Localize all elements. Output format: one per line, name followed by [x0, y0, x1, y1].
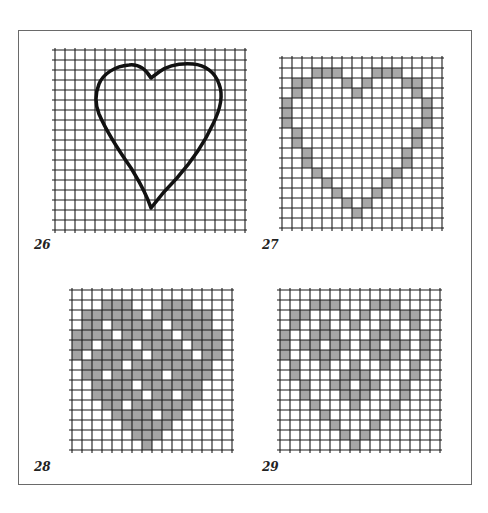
figure-label-27: 27	[262, 238, 279, 252]
filled-cell	[142, 380, 152, 390]
filled-cell	[300, 310, 310, 320]
filled-cell	[380, 410, 390, 420]
filled-cell	[172, 370, 182, 380]
filled-cell	[390, 400, 400, 410]
filled-cell	[172, 350, 182, 360]
filled-cell	[330, 420, 340, 430]
grid-panel-28	[72, 290, 232, 450]
filled-cell	[412, 138, 422, 148]
filled-cell	[412, 88, 422, 98]
filled-cell	[112, 370, 122, 380]
filled-cell	[162, 310, 172, 320]
filled-cell	[172, 360, 182, 370]
filled-cell	[122, 370, 132, 380]
filled-cell	[412, 128, 422, 138]
filled-cell	[152, 390, 162, 400]
filled-cell	[122, 420, 132, 430]
filled-cell	[102, 400, 112, 410]
filled-cell	[212, 330, 222, 340]
filled-cell	[92, 320, 102, 330]
filled-cell	[132, 350, 142, 360]
filled-cell	[362, 198, 372, 208]
filled-cell	[162, 380, 172, 390]
filled-cell	[402, 148, 412, 158]
filled-cell	[360, 380, 370, 390]
filled-cell	[322, 68, 332, 78]
filled-cell	[192, 340, 202, 350]
grid-panel-26	[55, 50, 245, 230]
filled-cell	[340, 340, 350, 350]
filled-cell	[182, 350, 192, 360]
filled-cell	[340, 370, 350, 380]
filled-cell	[152, 310, 162, 320]
figure-label-28: 28	[34, 460, 51, 474]
filled-cell	[122, 320, 132, 330]
filled-cell	[412, 78, 422, 88]
filled-cell	[192, 310, 202, 320]
filled-cell	[132, 360, 142, 370]
filled-cell	[282, 118, 292, 128]
filled-cell	[182, 360, 192, 370]
filled-cell	[182, 390, 192, 400]
filled-cell	[370, 330, 380, 340]
filled-cell	[390, 340, 400, 350]
filled-cell	[162, 390, 172, 400]
filled-cell	[192, 320, 202, 330]
filled-cell	[312, 168, 322, 178]
filled-cell	[312, 68, 322, 78]
filled-cell	[162, 350, 172, 360]
filled-cell	[102, 340, 112, 350]
filled-cell	[102, 330, 112, 340]
filled-cell	[310, 330, 320, 340]
filled-cell	[132, 400, 142, 410]
filled-cell	[330, 340, 340, 350]
filled-cell	[172, 300, 182, 310]
filled-cell	[362, 78, 372, 88]
filled-cell	[360, 430, 370, 440]
filled-cell	[410, 320, 420, 330]
filled-cell	[92, 390, 102, 400]
filled-cell	[322, 178, 332, 188]
filled-cell	[400, 310, 410, 320]
filled-cell	[290, 370, 300, 380]
filled-cell	[352, 208, 362, 218]
filled-cell	[82, 360, 92, 370]
filled-cell	[182, 310, 192, 320]
filled-cell	[142, 420, 152, 430]
filled-cell	[402, 78, 412, 88]
filled-cell	[320, 300, 330, 310]
filled-cell	[400, 340, 410, 350]
filled-cell	[380, 300, 390, 310]
filled-cell	[420, 350, 430, 360]
filled-cell	[290, 360, 300, 370]
filled-cell	[92, 350, 102, 360]
filled-cell	[122, 410, 132, 420]
filled-cell	[320, 330, 330, 340]
filled-cell	[142, 410, 152, 420]
filled-cell	[152, 320, 162, 330]
filled-cell	[122, 390, 132, 400]
filled-cell	[372, 68, 382, 78]
filled-cell	[420, 330, 430, 340]
filled-cell	[340, 430, 350, 440]
filled-cell	[182, 330, 192, 340]
filled-cell	[152, 370, 162, 380]
filled-cell	[292, 78, 302, 88]
filled-cell	[172, 320, 182, 330]
filled-cell	[422, 118, 432, 128]
filled-cell	[360, 390, 370, 400]
filled-cell	[392, 68, 402, 78]
filled-cell	[310, 350, 320, 360]
filled-cell	[212, 350, 222, 360]
filled-cell	[192, 330, 202, 340]
filled-cell	[300, 390, 310, 400]
filled-cell	[152, 350, 162, 360]
filled-cell	[342, 78, 352, 88]
filled-cell	[132, 430, 142, 440]
filled-cell	[332, 68, 342, 78]
filled-cell	[330, 330, 340, 340]
filled-cell	[82, 340, 92, 350]
filled-cell	[320, 350, 330, 360]
filled-cell	[300, 340, 310, 350]
filled-cell	[142, 440, 152, 450]
